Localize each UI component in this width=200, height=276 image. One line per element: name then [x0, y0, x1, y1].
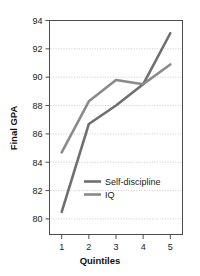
y-tick-label-94: 94: [32, 16, 42, 26]
x-tick-label-5: 5: [168, 242, 173, 252]
y-axis-title: Final GPA: [8, 106, 19, 151]
legend-label-iq: IQ: [105, 190, 115, 200]
x-tick-label-3: 3: [113, 242, 118, 252]
chart-container: 8082848688909294 12345 Self-discipline I…: [0, 0, 200, 276]
y-tick-label-90: 90: [32, 72, 42, 82]
x-tick-label-2: 2: [86, 242, 91, 252]
x-axis-title: Quintiles: [80, 255, 121, 266]
y-tick-label-86: 86: [32, 129, 42, 139]
x-tick-label-1: 1: [59, 242, 64, 252]
y-tick-label-88: 88: [32, 101, 42, 111]
x-tick-label-4: 4: [141, 242, 146, 252]
y-tick-label-84: 84: [32, 158, 42, 168]
y-tick-label-92: 92: [32, 44, 42, 54]
legend-label-self-discipline: Self-discipline: [105, 177, 161, 187]
y-tick-label-80: 80: [32, 214, 42, 224]
y-tick-label-82: 82: [32, 186, 42, 196]
line-chart: 8082848688909294 12345 Self-discipline I…: [0, 0, 200, 276]
